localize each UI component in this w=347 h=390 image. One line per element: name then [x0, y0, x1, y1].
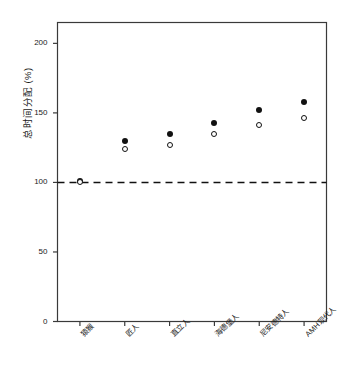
y-tick-label: 0: [20, 318, 48, 326]
data-point-filled-1: [122, 138, 128, 144]
y-axis-ticks: [53, 43, 58, 321]
y-tick-label: 50: [20, 248, 48, 256]
data-point-open-2: [167, 142, 173, 148]
plot-frame: [58, 23, 327, 322]
data-point-filled-2: [167, 131, 173, 137]
data-point-filled-5: [301, 99, 307, 105]
data-point-open-1: [122, 146, 128, 152]
y-tick-label: 100: [20, 178, 48, 186]
chart-figure: 总时间分配 (%) 050100150200 猿猴匠人直立人海德堡人尼安德特人A…: [0, 0, 347, 390]
y-tick-label: 150: [20, 109, 48, 117]
y-tick-label: 200: [20, 39, 48, 47]
